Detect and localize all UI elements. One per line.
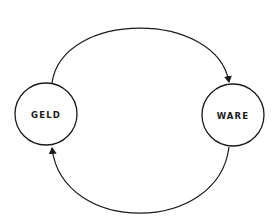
- edge-geld-to-ware: [52, 28, 229, 83]
- diagram-canvas: GELD WARE: [0, 0, 278, 222]
- node-ware: WARE: [202, 84, 264, 146]
- node-geld: GELD: [15, 83, 77, 145]
- cycle-diagram: GELD WARE: [0, 0, 278, 222]
- node-ware-label: WARE: [217, 111, 250, 121]
- edge-ware-to-geld: [52, 147, 229, 213]
- node-geld-label: GELD: [31, 110, 61, 120]
